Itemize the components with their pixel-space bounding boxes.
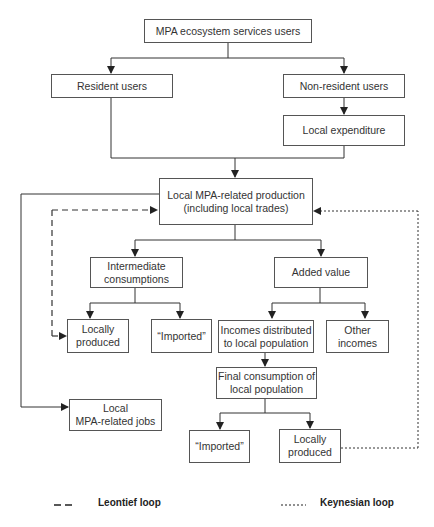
- node-ic-imported: “Imported”: [151, 319, 212, 353]
- node-resident-users: Resident users: [51, 74, 173, 98]
- keynesian-legend-symbol: [281, 502, 307, 508]
- node-fc-imported: “Imported”: [189, 430, 250, 463]
- node-added-value: Added value: [274, 257, 368, 288]
- keynesian-legend-label: Keynesian loop: [320, 497, 394, 508]
- leontief-legend-symbol: [54, 502, 78, 508]
- node-label-line1: Local MPA-related production: [167, 189, 305, 202]
- node-ic-locally-produced: Locally produced: [67, 319, 129, 353]
- node-label-line2: produced: [76, 336, 120, 349]
- node-label-line2: local population: [230, 383, 303, 396]
- node-label: “Imported”: [195, 440, 243, 453]
- node-label-line2: (including local trades): [183, 202, 288, 215]
- node-label-line1: Locally: [294, 433, 327, 446]
- node-local-production: Local MPA-related production (including …: [159, 178, 313, 225]
- leontief-legend-label: Leontief loop: [98, 497, 161, 508]
- node-mpa-users: MPA ecosystem services users: [144, 19, 312, 43]
- node-intermediate-consumptions: Intermediate consumptions: [90, 257, 183, 288]
- node-local-expenditure: Local expenditure: [283, 115, 405, 146]
- node-label: Non-resident users: [300, 80, 389, 93]
- node-label-line1: Intermediate: [107, 260, 165, 273]
- node-final-consumption: Final consumption of local population: [216, 367, 317, 399]
- node-label-line1: Other: [344, 324, 370, 337]
- node-label-line1: Local: [103, 402, 128, 415]
- node-fc-locally-produced: Locally produced: [279, 429, 341, 463]
- node-other-incomes: Other incomes: [326, 320, 389, 353]
- node-label: “Imported”: [157, 330, 205, 343]
- node-label: Local expenditure: [303, 124, 386, 137]
- node-label: Added value: [292, 266, 350, 279]
- node-label: Resident users: [77, 80, 147, 93]
- node-label-line2: consumptions: [104, 273, 169, 286]
- node-local-jobs: Local MPA-related jobs: [69, 399, 162, 431]
- node-incomes-distributed: Incomes distributed to local population: [218, 320, 314, 353]
- node-label-line2: to local population: [224, 337, 309, 350]
- node-label-line1: Incomes distributed: [220, 324, 311, 337]
- node-label-line2: MPA-related jobs: [76, 415, 156, 428]
- node-label-line2: produced: [288, 446, 332, 459]
- node-label-line2: incomes: [338, 337, 377, 350]
- node-non-resident-users: Non-resident users: [283, 74, 405, 98]
- node-label-line1: Final consumption of: [218, 370, 315, 383]
- node-label: MPA ecosystem services users: [156, 25, 301, 38]
- node-label-line1: Locally: [82, 323, 115, 336]
